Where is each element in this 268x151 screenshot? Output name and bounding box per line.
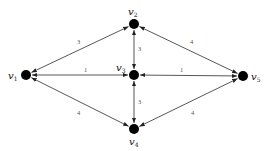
edge-weight-v1-v3: 1 — [84, 66, 87, 73]
node-label-v3: v3 — [116, 62, 126, 74]
edge-weight-v1-v4: 4 — [77, 109, 81, 116]
edge-v1-v2 — [31, 27, 128, 73]
edge-weight-v3-v5: 1 — [180, 66, 183, 73]
edge-weight-v4-v5: 4 — [191, 109, 195, 116]
nodes-layer — [21, 19, 248, 134]
edge-weight-v2-v5: 4 — [190, 38, 194, 45]
edge-weight-v2-v3: 3 — [138, 45, 141, 52]
edge-v2-v5 — [139, 27, 237, 74]
node-v4 — [129, 124, 139, 134]
edge-v4-v5 — [139, 79, 237, 127]
node-v2 — [129, 19, 139, 29]
node-v3 — [129, 70, 139, 80]
edge-weight-v1-v2: 3 — [77, 38, 80, 45]
graph-diagram: 33411344 v1v2v3v4v5 — [0, 0, 268, 151]
edge-weight-v3-v4: 3 — [138, 98, 141, 105]
node-label-v1: v1 — [8, 70, 17, 82]
edge-v1-v4 — [31, 78, 128, 127]
node-label-v5: v5 — [251, 71, 261, 83]
node-v1 — [21, 70, 31, 80]
node-label-v2: v2 — [128, 6, 138, 18]
edge-v3-v5 — [140, 75, 237, 76]
node-label-v4: v4 — [129, 136, 139, 148]
node-v5 — [238, 71, 248, 81]
